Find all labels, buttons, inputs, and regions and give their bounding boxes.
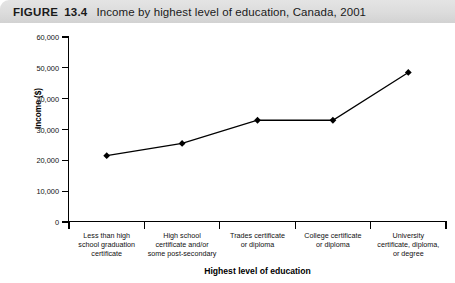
x-axis-category-label-line: school graduation — [69, 240, 144, 249]
x-axis-tick — [144, 222, 145, 229]
x-axis-tick — [219, 222, 220, 229]
x-axis-category-label: Trades certificateor diploma — [220, 231, 295, 249]
figure-caption: Income by highest level of education, Ca… — [96, 6, 366, 18]
y-axis-tick — [62, 129, 69, 130]
y-axis-tick — [62, 67, 69, 68]
x-axis-category-label-line: High school — [144, 231, 219, 240]
x-axis-category-label-line: certificate and/or — [144, 240, 219, 249]
x-axis-category-label-line: some post-secondary — [144, 249, 219, 258]
x-axis-category-label-line: certificate, diploma, — [371, 240, 446, 249]
y-axis-tick — [62, 160, 69, 161]
figure-header-text: FIGURE 13.4 Income by highest level of e… — [13, 0, 366, 23]
x-axis-category-label-line: or diploma — [220, 240, 295, 249]
y-axis-tick — [62, 36, 69, 37]
x-axis-category-label-line: Trades certificate — [220, 231, 295, 240]
plot-area — [69, 37, 446, 222]
x-axis-tick — [370, 222, 371, 229]
y-axis-tick-label: 0 — [55, 218, 59, 227]
x-axis-category-label: Less than highschool graduationcertifica… — [69, 231, 144, 259]
y-axis-tick-label: 60,000 — [36, 33, 59, 42]
x-axis-category-label-line: Less than high — [69, 231, 144, 240]
x-axis-category-label-line: University — [371, 231, 446, 240]
y-axis-tick-label: 20,000 — [36, 156, 59, 165]
x-axis-category-label-line: College certificate — [295, 231, 370, 240]
x-axis-tick — [295, 222, 296, 229]
x-axis-category-label-line: certificate — [69, 249, 144, 258]
x-axis-title: Highest level of education — [69, 266, 446, 276]
x-axis-category-label: Universitycertificate, diploma,or degree — [371, 231, 446, 259]
x-axis-category-label: High schoolcertificate and/orsome post-s… — [144, 231, 219, 259]
y-axis-tick-labels: 010,00020,00030,00040,00050,00060,000 — [0, 0, 59, 283]
y-axis-tick — [62, 98, 69, 99]
figure-number: 13.4 — [64, 6, 87, 18]
x-axis-tick — [445, 222, 446, 229]
x-axis-tick — [68, 222, 69, 229]
x-axis-category-label-line: or diploma — [295, 240, 370, 249]
x-axis-category-label-line: or degree — [371, 249, 446, 258]
x-axis-category-label: College certificateor diploma — [295, 231, 370, 249]
y-axis-tick-label: 10,000 — [36, 187, 59, 196]
figure-container: FIGURE 13.4 Income by highest level of e… — [0, 0, 455, 283]
y-axis-title: Income ($) — [34, 64, 43, 154]
y-axis-tick — [62, 191, 69, 192]
